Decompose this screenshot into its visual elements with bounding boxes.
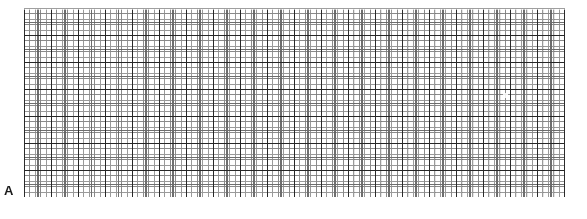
grid-print-texture [24, 8, 565, 197]
chart-grid-paper [24, 8, 565, 197]
figure-panel: A [0, 0, 587, 219]
scan-artifact-spot [503, 93, 508, 98]
panel-label-a: A [4, 183, 18, 198]
grid-top-edge-fade [24, 8, 565, 10]
